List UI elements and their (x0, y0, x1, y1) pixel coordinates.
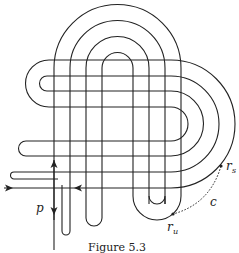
figure-caption: Figure 5.3 (88, 241, 146, 253)
u-loop-middle (86, 218, 102, 226)
loop-outer (4, 60, 235, 188)
u-loop-outer-right (133, 196, 181, 220)
left-hairpin-inner (40, 76, 48, 91)
label-r-s-subscript: s (232, 166, 236, 175)
arch-2 (70, 21, 165, 205)
left-hairpin-outer (26, 60, 49, 107)
u-loop-small (62, 185, 70, 235)
u-loop-inner-right (149, 196, 165, 204)
labels: p r s c r u Figure 5.3 (36, 159, 236, 253)
horizontal-loops (4, 60, 235, 188)
label-c: c (210, 195, 217, 209)
label-p: p (36, 201, 44, 215)
arch-3 (86, 37, 149, 219)
point-r-s (219, 164, 222, 167)
figure-diagram: p r s c r u Figure 5.3 (0, 0, 239, 253)
label-r-u-subscript: u (173, 227, 178, 236)
bottom-u-loops (54, 160, 181, 250)
arch-inner (102, 53, 133, 218)
point-r-u (171, 212, 174, 215)
loop-3 (19, 91, 204, 156)
